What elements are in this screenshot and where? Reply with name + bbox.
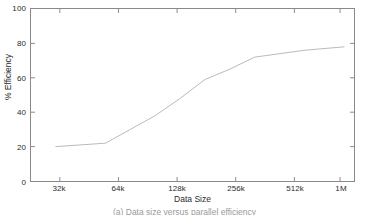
x-tick-label-32k: 32k: [52, 184, 65, 193]
figure-caption: (a) Data size versus parallel efficiency: [0, 207, 369, 215]
plot-canvas: [31, 9, 354, 181]
x-tick-label-64k: 64k: [111, 184, 124, 193]
x-tick-label-128k: 128k: [168, 184, 186, 193]
y-axis-title: % Efficiency: [3, 47, 13, 107]
x-tick-marks: [60, 9, 340, 181]
x-tick-label-512k: 512k: [286, 184, 304, 193]
y-tick-label-80: 80: [17, 38, 26, 47]
x-tick-label-256k: 256k: [227, 184, 245, 193]
efficiency-line-series: [56, 47, 344, 147]
x-axis-title: Data Size: [30, 194, 355, 204]
y-tick-label-20: 20: [17, 143, 26, 152]
y-tick-label-0: 0: [21, 178, 26, 187]
figure-panel: 0 20 40 60 80 100 % Efficiency: [0, 0, 369, 215]
y-tick-label-60: 60: [17, 73, 26, 82]
y-tick-label-40: 40: [17, 108, 26, 117]
y-tick-marks: [31, 43, 354, 146]
x-tick-label-1M: 1M: [335, 184, 346, 193]
plot-area: [30, 8, 355, 182]
y-tick-label-100: 100: [12, 4, 26, 13]
